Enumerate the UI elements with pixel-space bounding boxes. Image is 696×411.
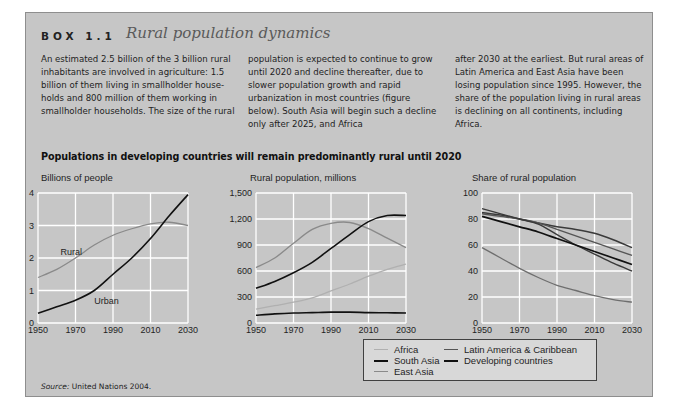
legend-swatch-icon [444,349,458,350]
svg-text:4: 4 [29,188,34,198]
svg-text:300: 300 [237,292,252,302]
svg-text:1,200: 1,200 [229,214,252,224]
svg-text:2: 2 [29,253,34,263]
chart-2-plot: 03006009001,2001,50019501970199020102030 [229,188,416,335]
svg-text:2010: 2010 [358,325,378,335]
svg-text:900: 900 [237,240,252,250]
svg-text:1950: 1950 [246,325,266,335]
svg-text:2030: 2030 [396,325,416,335]
svg-text:80: 80 [468,214,478,224]
svg-text:1970: 1970 [65,325,85,335]
svg-text:Urban: Urban [94,296,119,306]
svg-text:60: 60 [468,240,478,250]
svg-text:3: 3 [29,221,34,231]
chart-3-plot: 02040608010019501970199020102030 [463,188,642,335]
box-panel: BOX 1.1 Rural population dynamics An est… [25,12,653,397]
svg-text:40: 40 [468,266,478,276]
svg-text:20: 20 [468,292,478,302]
legend-item-latin-america: Latin America & Caribbean [444,344,577,355]
legend-swatch-icon [374,371,388,372]
legend: Africa South Asia East Asia Latin Americ… [363,339,597,381]
legend-swatch-icon [444,360,458,362]
svg-text:2030: 2030 [622,325,642,335]
svg-text:1990: 1990 [547,325,567,335]
legend-item-east-asia: East Asia [374,366,434,377]
legend-item-developing-countries: Developing countries [444,355,553,366]
legend-swatch-icon [374,349,388,350]
svg-text:1970: 1970 [509,325,529,335]
svg-text:100: 100 [463,188,478,198]
svg-text:1: 1 [29,286,34,296]
svg-text:2010: 2010 [140,325,160,335]
svg-text:Rural: Rural [61,247,83,257]
legend-swatch-icon [374,360,388,362]
svg-text:600: 600 [237,266,252,276]
svg-text:1950: 1950 [472,325,492,335]
svg-text:2010: 2010 [584,325,604,335]
legend-item-africa: Africa [374,344,418,355]
svg-text:2030: 2030 [178,325,198,335]
svg-text:1970: 1970 [283,325,303,335]
legend-item-south-asia: South Asia [374,355,439,366]
source-note: Source: United Nations 2004. [41,382,151,391]
chart-1-plot: 0123419501970199020102030RuralUrban [28,188,198,335]
svg-text:1990: 1990 [321,325,341,335]
svg-text:1,500: 1,500 [229,188,252,198]
svg-text:1990: 1990 [103,325,123,335]
svg-text:1950: 1950 [28,325,48,335]
